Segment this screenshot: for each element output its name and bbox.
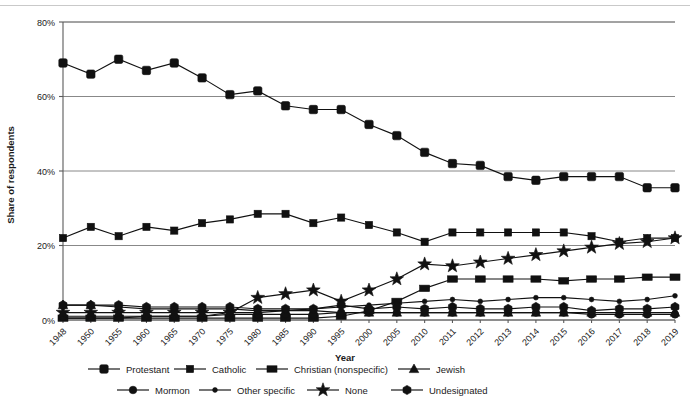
data-point-hexagon <box>115 301 123 310</box>
x-tick-label: 2013 <box>492 326 513 347</box>
legend-label: Catholic <box>212 364 247 375</box>
legend-label: Christian (nonspecific) <box>294 364 388 375</box>
legend-item-undesignated[interactable]: Undesignated <box>391 385 488 396</box>
data-point-square-rounded <box>393 131 401 139</box>
data-point-square <box>560 229 567 236</box>
data-point-square-wide <box>420 285 430 291</box>
data-point-square-rounded <box>337 105 345 113</box>
x-tick-label: 2019 <box>659 326 680 347</box>
data-point-square-rounded <box>59 59 67 67</box>
data-point-hexagon <box>393 302 401 311</box>
data-point-star <box>316 383 330 396</box>
data-point-star <box>390 272 404 285</box>
data-point-square-rounded <box>254 87 262 95</box>
data-point-hexagon <box>142 302 150 311</box>
data-point-square-wide <box>447 276 457 282</box>
data-point-triangle <box>409 364 419 373</box>
legend-label: Mormon <box>155 385 190 396</box>
data-point-star <box>307 283 321 296</box>
legend-item-jewish[interactable]: Jewish <box>398 364 465 375</box>
y-tick-label: 0% <box>42 316 55 326</box>
data-point-hexagon <box>504 304 512 313</box>
data-point-hexagon <box>198 302 206 311</box>
series-line <box>63 238 675 312</box>
data-point-hexagon <box>643 304 651 313</box>
data-point-circle-small <box>645 297 650 302</box>
y-tick-label: 60% <box>37 92 55 102</box>
x-tick-label: 2016 <box>576 326 597 347</box>
data-point-hexagon <box>448 302 456 311</box>
data-point-hexagon <box>309 304 317 313</box>
data-point-hexagon <box>671 302 679 311</box>
data-point-circle-large <box>129 386 137 394</box>
data-point-square <box>115 233 122 240</box>
data-point-square <box>186 365 193 372</box>
data-point-square-rounded <box>114 55 122 63</box>
legend-item-mormon[interactable]: Mormon <box>117 385 190 396</box>
y-tick-label: 80% <box>37 18 55 28</box>
data-point-square-wide <box>267 366 277 372</box>
religious-affiliation-line-chart: 0%20%40%60%80% 1948195019551960196519701… <box>0 0 690 417</box>
data-point-hexagon <box>226 302 234 311</box>
data-point-square <box>504 229 511 236</box>
data-point-circle-small <box>478 299 483 304</box>
data-point-hexagon <box>87 301 95 310</box>
x-tick-label: 2018 <box>631 326 652 347</box>
data-point-square <box>282 210 289 217</box>
data-point-hexagon <box>560 302 568 311</box>
legend-item-christian-nonspecific[interactable]: Christian (nonspecific) <box>256 364 388 375</box>
data-point-hexagon <box>403 385 411 394</box>
data-point-square-rounded <box>615 172 623 180</box>
x-tick-label: 1995 <box>325 326 346 347</box>
data-point-square-rounded <box>671 184 679 192</box>
legend-item-none[interactable]: None <box>307 383 368 396</box>
data-point-square <box>449 229 456 236</box>
data-point-circle-small <box>506 297 511 302</box>
data-point-square-rounded <box>87 70 95 78</box>
legend-item-other-specific[interactable]: Other specific <box>199 385 295 396</box>
legend-item-protestant[interactable]: Protestant <box>88 364 170 375</box>
data-point-square-rounded <box>420 148 428 156</box>
line-chart-container: 0%20%40%60%80% 1948195019551960196519701… <box>0 0 690 417</box>
data-point-square-wide <box>587 276 597 282</box>
data-point-square-rounded <box>170 59 178 67</box>
data-point-circle-small <box>534 295 539 300</box>
data-point-square <box>365 221 372 228</box>
data-point-hexagon <box>59 301 67 310</box>
data-point-square <box>310 220 317 227</box>
data-point-hexagon <box>476 304 484 313</box>
data-point-circle-small <box>450 297 455 302</box>
data-point-square-wide <box>531 276 541 282</box>
data-point-circle-small <box>561 295 566 300</box>
data-point-square-wide <box>642 274 652 280</box>
x-tick-label: 1980 <box>242 326 263 347</box>
data-point-square-rounded <box>309 105 317 113</box>
data-point-square-wide <box>475 276 485 282</box>
x-tick-label: 1985 <box>270 326 291 347</box>
data-point-square <box>338 214 345 221</box>
data-point-hexagon <box>254 304 262 313</box>
data-point-square <box>421 238 428 245</box>
data-point-hexagon <box>365 304 373 313</box>
data-point-hexagon <box>421 304 429 313</box>
data-point-square-wide <box>614 276 624 282</box>
data-point-square <box>171 227 178 234</box>
legend-item-catholic[interactable]: Catholic <box>174 364 247 375</box>
data-point-square-rounded <box>587 172 595 180</box>
x-tick-label: 1990 <box>298 326 319 347</box>
data-point-square-rounded <box>226 90 234 98</box>
x-tick-label: 1950 <box>75 326 96 347</box>
data-point-square <box>226 216 233 223</box>
data-point-square-rounded <box>532 176 540 184</box>
legend-label: Jewish <box>436 364 465 375</box>
data-point-square-rounded <box>643 184 651 192</box>
y-tick-labels-group: 0%20%40%60%80% <box>37 18 55 326</box>
data-point-square <box>59 234 66 241</box>
data-point-hexagon <box>532 302 540 311</box>
x-axis-title: Year <box>335 352 355 363</box>
x-tick-label: 1975 <box>214 326 235 347</box>
x-tick-label: 2011 <box>437 326 458 347</box>
x-tick-label: 1955 <box>103 326 124 347</box>
data-point-square <box>87 223 94 230</box>
data-point-square-wide <box>559 278 569 284</box>
